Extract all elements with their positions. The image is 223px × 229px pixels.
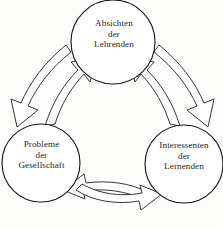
connector-top-to-left — [11, 45, 71, 127]
node-circle-top — [71, 0, 155, 84]
node-circle-right — [145, 125, 223, 203]
cycle-diagram: Absichten der Lehrenden Probleme der Ges… — [0, 0, 223, 229]
node-circle-left — [2, 124, 80, 202]
connector-top-to-right — [154, 45, 214, 127]
diagram-canvas — [0, 0, 223, 229]
